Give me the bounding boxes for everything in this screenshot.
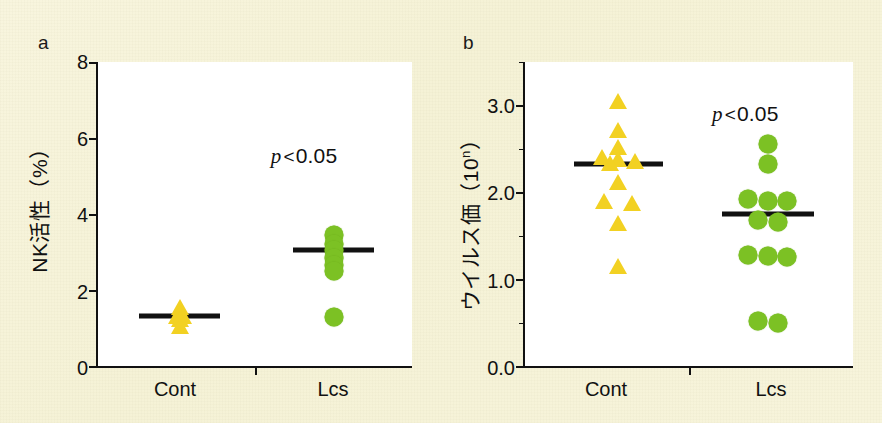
ytick-2.0 (516, 192, 525, 194)
panel-b-letter: b (463, 32, 474, 54)
pvalue-lt: < (724, 104, 737, 125)
ylabel-superscript: n (458, 150, 473, 158)
xlabel-cont: Cont (154, 378, 196, 401)
ytick-8 (89, 62, 98, 64)
pvalue-number: 0.05 (296, 144, 338, 167)
ytick-label: 8 (77, 51, 88, 74)
ytick-label: 2 (77, 280, 88, 303)
xaxis-mid-tick (689, 366, 691, 375)
panel-b: b 3.0 2.0 1.0 0.0 ウイルス価（10n） p<0.05 (441, 0, 882, 423)
data-point-lcs (324, 307, 343, 326)
data-point-lcs (768, 212, 787, 231)
ytick-4 (89, 214, 98, 216)
pvalue-lt: < (282, 146, 295, 167)
data-point-lcs (739, 190, 758, 209)
data-point-lcs (758, 246, 777, 265)
xaxis-mid-tick (255, 366, 257, 375)
ytick-label: 6 (77, 127, 88, 150)
ytick-minor-1.5 (519, 236, 525, 237)
ytick-1.0 (516, 279, 525, 281)
panel-a-plot-area: p<0.05 (96, 62, 412, 368)
ytick-0.0 (516, 366, 525, 368)
ytick-label: 0 (77, 357, 88, 380)
data-point-lcs (758, 135, 777, 154)
panel-a: a 8 6 4 2 0 NK活性（%） p<0.05 (0, 0, 441, 423)
ylabel-suffix: ） (459, 129, 482, 151)
ytick-label: 1.0 (487, 269, 515, 292)
ytick-0 (89, 366, 98, 368)
data-point-lcs (778, 247, 797, 266)
data-point-lcs (778, 191, 797, 210)
ylabel-prefix: ウイルス価（10 (459, 158, 482, 311)
xlabel-lcs: Lcs (317, 378, 348, 401)
lcs-mean-line (722, 212, 814, 217)
panel-a-ytick-labels: 8 6 4 2 0 (54, 62, 88, 368)
ytick-label: 4 (77, 204, 88, 227)
ytick-label: 0.0 (487, 357, 515, 380)
ytick-6 (89, 138, 98, 140)
pvalue-p: p (271, 144, 283, 168)
panel-b-y-axis-title: ウイルス価（10n） (454, 120, 484, 320)
data-point-lcs (739, 245, 758, 264)
panel-a-letter: a (38, 32, 49, 54)
figure-root: a 8 6 4 2 0 NK活性（%） p<0.05 (0, 0, 882, 423)
ytick-minor-0.5 (519, 323, 525, 324)
panel-b-plot-area: p<0.05 (523, 62, 853, 368)
panel-a-y-axis-title: NK活性（%） (23, 120, 53, 290)
data-point-lcs (324, 262, 343, 281)
xlabel-cont: Cont (585, 378, 627, 401)
data-point-lcs (748, 311, 767, 330)
ytick-label: 2.0 (487, 182, 515, 205)
xlabel-lcs: Lcs (755, 378, 786, 401)
data-point-lcs (758, 155, 777, 174)
panel-b-pvalue: p<0.05 (712, 102, 779, 127)
pvalue-number: 0.05 (737, 102, 779, 125)
ytick-minor-2.5 (519, 149, 525, 150)
data-point-lcs (768, 313, 787, 332)
ytick-2 (89, 290, 98, 292)
panel-a-pvalue: p<0.05 (271, 144, 338, 169)
ytick-label: 3.0 (487, 94, 515, 117)
ytick-3.0 (516, 105, 525, 107)
data-point-lcs (758, 191, 777, 210)
ytick-minor-3.5 (519, 62, 525, 63)
pvalue-p: p (712, 102, 724, 126)
data-point-lcs (748, 211, 767, 230)
